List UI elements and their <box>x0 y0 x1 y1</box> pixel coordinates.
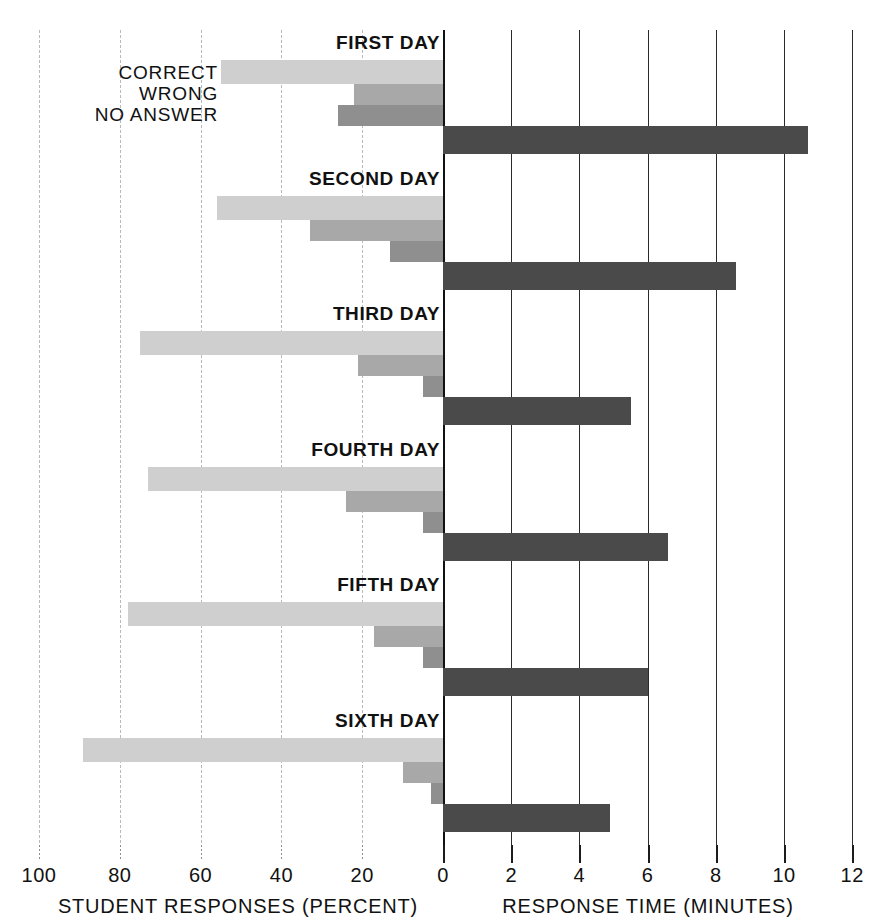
day-label-second-day: SECOND DAY <box>309 168 440 190</box>
tick-left-20 <box>362 845 363 861</box>
bar-no-answer-fourth-day <box>423 512 443 533</box>
gridline-left-80 <box>120 30 121 845</box>
bar-wrong-second-day <box>310 220 443 241</box>
right-axis-title: RESPONSE TIME (MINUTES) <box>502 895 793 918</box>
bar-no-answer-first-day <box>338 105 443 126</box>
bar-response-time-second-day <box>443 262 736 290</box>
bar-wrong-sixth-day <box>403 762 443 783</box>
tick-label-left-20: 20 <box>351 864 374 887</box>
tick-right-8 <box>716 845 718 863</box>
tick-label-right-8: 8 <box>710 864 722 887</box>
bar-wrong-third-day <box>358 355 443 376</box>
bar-correct-sixth-day <box>83 738 443 762</box>
left-axis-title: STUDENT RESPONSES (PERCENT) <box>58 895 418 918</box>
bar-response-time-fifth-day <box>443 668 648 696</box>
bar-response-time-fourth-day <box>443 533 668 561</box>
series-legend: CORRECT WRONG NO ANSWER <box>0 62 218 125</box>
chart-canvas: FIRST DAYSECOND DAYTHIRD DAYFOURTH DAYFI… <box>0 0 877 919</box>
bar-wrong-first-day <box>354 84 443 105</box>
tick-right-2 <box>511 845 513 863</box>
bar-no-answer-fifth-day <box>423 647 443 668</box>
tick-label-right-6: 6 <box>642 864 654 887</box>
tick-right-10 <box>784 845 786 863</box>
tick-label-right-4: 4 <box>574 864 586 887</box>
bar-correct-second-day <box>217 196 443 220</box>
tick-label-left-60: 60 <box>189 864 212 887</box>
tick-label-right-2: 2 <box>505 864 517 887</box>
tick-left-60 <box>201 845 202 861</box>
tick-right-12 <box>852 845 854 863</box>
tick-left-40 <box>281 845 282 861</box>
tick-label-right-12: 12 <box>841 864 864 887</box>
tick-label-left-100: 100 <box>22 864 57 887</box>
bar-no-answer-second-day <box>390 241 443 262</box>
gridline-left-100 <box>39 30 40 845</box>
tick-label-left-0: 0 <box>437 864 449 887</box>
bar-response-time-third-day <box>443 397 631 425</box>
tick-label-left-80: 80 <box>108 864 131 887</box>
bar-no-answer-sixth-day <box>431 783 443 804</box>
tick-label-right-10: 10 <box>772 864 795 887</box>
bar-correct-fifth-day <box>128 602 443 626</box>
day-label-fifth-day: FIFTH DAY <box>337 574 440 596</box>
legend-item-no-answer: NO ANSWER <box>0 104 218 125</box>
gridline-left-40 <box>281 30 282 845</box>
legend-item-correct: CORRECT <box>0 62 218 83</box>
day-label-sixth-day: SIXTH DAY <box>335 710 440 732</box>
bar-correct-first-day <box>221 60 443 84</box>
tick-right-6 <box>648 845 650 863</box>
gridline-left-60 <box>201 30 202 845</box>
bar-wrong-fifth-day <box>374 626 443 647</box>
tick-left-80 <box>120 845 121 861</box>
day-label-fourth-day: FOURTH DAY <box>311 439 440 461</box>
bar-wrong-fourth-day <box>346 491 443 512</box>
tick-right-4 <box>579 845 581 863</box>
tick-left-100 <box>39 845 40 861</box>
tick-right-0 <box>443 845 445 863</box>
bar-response-time-first-day <box>443 126 808 154</box>
legend-item-wrong: WRONG <box>0 83 218 104</box>
bar-no-answer-third-day <box>423 376 443 397</box>
gridline-right-12 <box>852 30 853 845</box>
day-label-third-day: THIRD DAY <box>333 303 440 325</box>
bar-correct-fourth-day <box>148 467 443 491</box>
day-label-first-day: FIRST DAY <box>336 32 440 54</box>
bar-correct-third-day <box>140 331 443 355</box>
bar-response-time-sixth-day <box>443 804 610 832</box>
tick-label-left-40: 40 <box>270 864 293 887</box>
